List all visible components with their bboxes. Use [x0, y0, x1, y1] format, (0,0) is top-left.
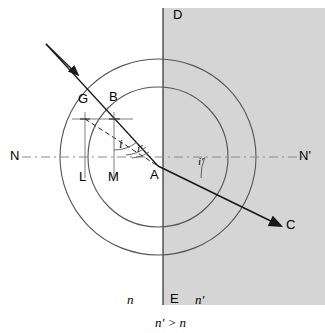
label-index-relation: n' > n	[155, 316, 186, 329]
diagram-canvas	[0, 0, 325, 333]
label-index-n: n	[127, 293, 134, 306]
refraction-huygens-diagram: D N N' G B L M A C i i' i' n E n' n' > n	[0, 0, 325, 333]
angle-arc-incidence	[114, 142, 137, 150]
label-interface-bottom-e: E	[170, 292, 179, 305]
label-normal-left-n: N	[10, 149, 19, 162]
label-index-n-prime: n'	[195, 293, 204, 306]
label-angle-refraction-i-prime: i'	[198, 156, 203, 167]
angle-arc-construction	[126, 147, 146, 155]
label-point-g: G	[78, 92, 88, 105]
label-point-a: A	[150, 168, 159, 181]
label-point-l: L	[79, 170, 86, 183]
label-interface-top-d: D	[173, 8, 182, 21]
label-angle-construction-i-prime: i'	[137, 143, 142, 154]
label-point-c: C	[286, 218, 295, 231]
label-angle-incidence-i: i	[119, 137, 123, 150]
label-point-m: M	[108, 170, 119, 183]
label-normal-right-n-prime: N'	[299, 149, 311, 162]
label-point-b: B	[109, 90, 118, 103]
